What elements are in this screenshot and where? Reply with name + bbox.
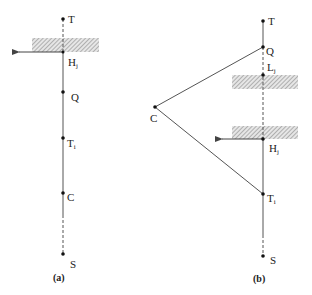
label-ti: Ti <box>67 137 76 151</box>
segment-c-ti <box>155 107 263 194</box>
label-h: Hj <box>269 142 279 156</box>
diagram-canvas: T Hj Q Ti C S (a) T Q Lj C Hj Ti S (b) <box>0 0 312 295</box>
label-t: T <box>68 13 75 25</box>
point-q <box>261 45 265 49</box>
obstacle-hatched-region-upper <box>232 75 298 89</box>
point-h <box>261 137 265 141</box>
obstacle-hatched-region-lower <box>232 126 298 139</box>
label-c: C <box>150 112 157 124</box>
label-q: Q <box>71 91 79 103</box>
label-s: S <box>270 254 276 266</box>
label-h: Hj <box>68 56 78 70</box>
caption-b: (b) <box>253 273 265 285</box>
point-s <box>61 252 65 256</box>
point-q <box>61 90 65 94</box>
point-c <box>153 105 157 109</box>
label-s: S <box>70 258 76 270</box>
point-h <box>62 51 65 54</box>
label-c: C <box>67 191 74 203</box>
panel-b: T Q Lj C Hj Ti S (b) <box>150 15 298 285</box>
point-s <box>261 254 265 258</box>
point-ti <box>261 192 265 196</box>
label-l: Lj <box>267 61 276 75</box>
obstacle-hatched-region <box>32 38 99 52</box>
point-t <box>61 17 65 21</box>
point-ti <box>61 136 65 140</box>
point-t <box>261 19 265 23</box>
label-ti: Ti <box>267 192 276 206</box>
panel-a: T Hj Q Ti C S (a) <box>19 13 99 284</box>
label-t: T <box>268 15 275 27</box>
label-q: Q <box>266 45 274 57</box>
caption-a: (a) <box>53 272 65 284</box>
point-l <box>261 73 265 77</box>
point-c <box>61 191 65 195</box>
